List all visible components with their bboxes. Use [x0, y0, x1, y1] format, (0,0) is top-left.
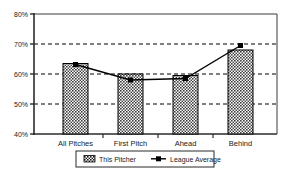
x-tick-label-ahead: Ahead — [175, 139, 197, 148]
bar-ahead — [173, 76, 198, 135]
bar-behind — [228, 50, 253, 134]
y-tick-label-50: 50% — [14, 101, 28, 108]
bar-all-pitches — [63, 64, 88, 135]
y-tick-label-80: 80% — [14, 11, 28, 18]
line-point-first-pitch — [128, 78, 133, 83]
chart-legend: This Pitcher League Average — [76, 151, 221, 167]
pitch-strike-percentage-chart: 80% 70% 60% 50% 40% All Pitches First — [0, 0, 288, 172]
legend-label-this-pitcher: This Pitcher — [99, 156, 137, 163]
line-point-behind — [238, 43, 243, 48]
y-tick-label-60: 60% — [14, 71, 28, 78]
legend-label-league-average: League Average — [170, 156, 221, 164]
bar-first-pitch — [118, 74, 143, 134]
chart-canvas: 80% 70% 60% 50% 40% All Pitches First — [0, 0, 288, 172]
legend-swatch-this-pitcher — [84, 156, 95, 163]
x-tick-label-all-pitches: All Pitches — [58, 139, 93, 148]
x-tick-label-first-pitch: First Pitch — [114, 139, 147, 148]
line-point-all-pitches — [73, 62, 78, 67]
y-tick-label-40: 40% — [14, 131, 28, 138]
line-point-ahead — [183, 76, 188, 81]
y-tick-label-70: 70% — [14, 41, 28, 48]
x-tick-label-behind: Behind — [229, 139, 252, 148]
